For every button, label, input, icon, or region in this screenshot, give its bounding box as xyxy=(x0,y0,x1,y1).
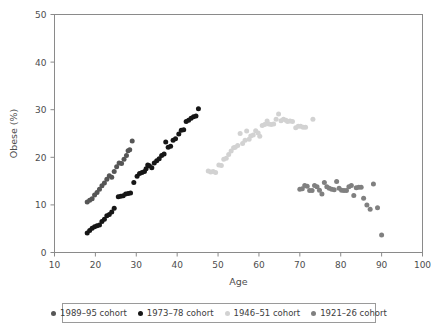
data-point xyxy=(173,136,178,141)
y-tick-label: 20 xyxy=(35,153,47,163)
x-tick-label: 10 xyxy=(49,260,61,270)
data-point xyxy=(334,179,339,184)
chart-legend: 1989–95 cohort1973–78 cohort1946–51 coho… xyxy=(62,303,376,323)
data-point xyxy=(124,153,129,158)
data-point xyxy=(332,187,337,192)
data-point xyxy=(251,132,256,137)
data-point xyxy=(359,185,364,190)
data-point xyxy=(244,129,249,134)
y-axis-title: Obese (%) xyxy=(8,109,19,159)
data-point xyxy=(322,180,327,185)
legend-label: 1921–26 cohort xyxy=(320,309,387,318)
data-point xyxy=(193,113,198,118)
data-point xyxy=(364,202,369,207)
x-axis-title: Age xyxy=(229,276,248,287)
data-point xyxy=(219,163,224,168)
y-tick-label: 30 xyxy=(35,105,47,115)
legend-entry-4[interactable]: 1921–26 cohort xyxy=(311,309,387,318)
x-tick-label: 30 xyxy=(131,260,143,270)
data-point xyxy=(119,161,124,166)
data-point xyxy=(196,106,201,111)
data-point xyxy=(310,117,315,122)
legend-marker-icon xyxy=(311,311,316,316)
data-point xyxy=(274,117,279,122)
y-tick-label: 10 xyxy=(35,200,47,210)
data-point xyxy=(163,140,168,145)
data-point xyxy=(271,121,276,126)
legend-marker-icon xyxy=(51,311,56,316)
data-points-group xyxy=(85,106,384,237)
x-tick-label: 60 xyxy=(253,260,265,270)
data-point xyxy=(368,207,373,212)
data-point xyxy=(319,191,324,196)
data-point xyxy=(290,119,295,124)
legend-entry-3[interactable]: 1946–51 cohort xyxy=(225,309,301,318)
x-tick-label: 20 xyxy=(90,260,102,270)
y-tick-label: 50 xyxy=(35,10,47,20)
x-tick-label: 70 xyxy=(294,260,306,270)
scatter-plot-svg: 10203040506070809010001020304050 Age Obe… xyxy=(0,0,439,335)
data-point xyxy=(162,151,167,156)
x-tick-label: 50 xyxy=(212,260,224,270)
data-point xyxy=(131,180,136,185)
y-tick-label: 0 xyxy=(41,248,47,258)
x-tick-label: 100 xyxy=(414,260,431,270)
data-point xyxy=(351,193,356,198)
legend-marker-icon xyxy=(138,311,143,316)
obesity-by-age-cohort-chart: 10203040506070809010001020304050 Age Obe… xyxy=(0,0,439,335)
legend-label: 1946–51 cohort xyxy=(234,309,301,318)
data-point xyxy=(112,206,117,211)
data-point xyxy=(128,191,133,196)
data-point xyxy=(276,111,281,116)
data-point xyxy=(305,184,310,189)
data-point xyxy=(257,134,262,139)
data-point xyxy=(130,139,135,144)
x-tick-label: 90 xyxy=(376,260,388,270)
data-point xyxy=(109,175,114,180)
data-point xyxy=(112,169,117,174)
series-4 xyxy=(297,179,384,237)
legend-label: 1989–95 cohort xyxy=(60,309,127,318)
data-point xyxy=(238,131,243,136)
data-point xyxy=(375,205,380,210)
data-point xyxy=(379,232,384,237)
x-tick-label: 80 xyxy=(335,260,347,270)
data-point xyxy=(168,144,173,149)
series-3 xyxy=(206,111,316,175)
data-point xyxy=(181,127,186,132)
data-point xyxy=(349,183,354,188)
legend-entry-2[interactable]: 1973–78 cohort xyxy=(138,309,214,318)
legend-marker-icon xyxy=(225,311,230,316)
x-tick-label: 40 xyxy=(171,260,183,270)
legend-label: 1973–78 cohort xyxy=(147,309,214,318)
data-point xyxy=(149,165,154,170)
data-point xyxy=(361,196,366,201)
data-point xyxy=(371,181,376,186)
legend-entry-1[interactable]: 1989–95 cohort xyxy=(51,309,127,318)
series-2 xyxy=(85,106,201,235)
axes-group: 10203040506070809010001020304050 xyxy=(35,10,431,270)
data-point xyxy=(303,125,308,130)
data-point xyxy=(127,147,132,152)
data-point xyxy=(235,143,240,148)
y-tick-label: 40 xyxy=(35,58,47,68)
data-point xyxy=(213,170,218,175)
data-point xyxy=(310,188,315,193)
